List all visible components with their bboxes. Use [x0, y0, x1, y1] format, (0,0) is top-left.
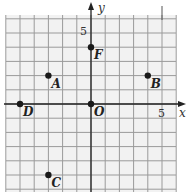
coordinate-plane: x y 5 5 ABCDFO [0, 0, 188, 192]
x-tick-label-5: 5 [158, 107, 165, 120]
y-axis-label: y [97, 1, 105, 15]
point-label-a: A [50, 77, 60, 91]
x-axis-label: x [179, 106, 186, 120]
point-label-c: C [51, 176, 61, 190]
point-label-b: B [150, 77, 161, 91]
y-axis-arrow-icon [88, 2, 94, 10]
point-label-o: O [94, 105, 105, 119]
y-tick-label-5: 5 [80, 25, 87, 38]
point-label-d: D [22, 105, 34, 119]
point-label-f: F [93, 48, 104, 62]
